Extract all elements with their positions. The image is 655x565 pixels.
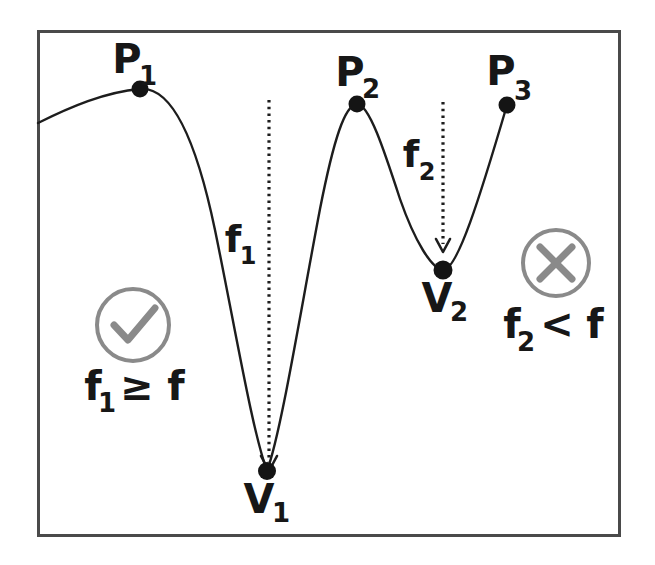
condition-accepted-lhs-sub: 1 [98,388,116,418]
condition-rejected-rhs: f [586,301,604,347]
label-p2-sub: 2 [362,74,380,104]
condition-accepted-rhs: f [167,363,185,409]
threshold-curve-diagram: P 1 P 2 P 3 V 1 V 2 f 1 f [0,0,655,565]
condition-rejected-operator: < [540,301,574,347]
figure-canvas: P 1 P 2 P 3 V 1 V 2 f 1 f [0,0,655,565]
label-p3-sub: 3 [514,76,532,106]
label-p1-sub: 1 [139,61,157,91]
label-v1-main: V [244,476,275,522]
condition-accepted-operator: ≥ [120,363,154,409]
label-p2-main: P [335,49,364,95]
label-p3-main: P [486,48,515,94]
label-v2-sub: 2 [450,297,468,327]
label-v2-main: V [422,275,453,321]
label-f1-sub: 1 [240,242,257,270]
label-v1-sub: 1 [272,498,290,528]
condition-rejected-lhs-sub: 2 [517,327,535,357]
label-f2-main: f [403,132,420,176]
marker-dot-p3 [499,97,516,114]
label-p1-main: P [112,36,141,82]
label-f2-sub: 2 [419,158,436,186]
